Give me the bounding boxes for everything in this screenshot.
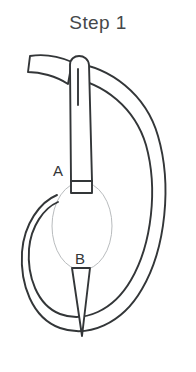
needle-shaft (70, 56, 92, 181)
label-b: B (75, 250, 85, 267)
needle-point (72, 268, 90, 336)
needle-thread-illustration: A B (0, 36, 196, 366)
label-a: A (53, 162, 63, 179)
diagram-page: Step 1 A B (0, 0, 196, 372)
needle-mid-segment (71, 181, 92, 193)
thread-tail (28, 55, 72, 84)
page-title: Step 1 (0, 12, 196, 34)
